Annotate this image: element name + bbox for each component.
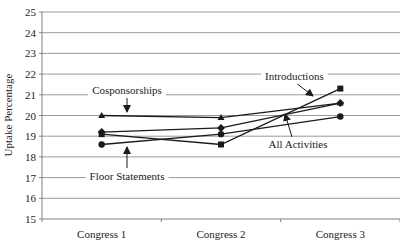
annotation-label: All Activities	[269, 138, 328, 150]
annotation-label: Cosponsorships	[92, 84, 162, 96]
circle-marker	[337, 113, 343, 119]
x-tick-label: Congress 2	[196, 228, 245, 240]
diamond-marker	[336, 99, 344, 107]
y-tick-label: 17	[25, 172, 37, 184]
y-tick-label: 18	[25, 151, 37, 163]
y-tick-label: 22	[25, 68, 36, 80]
circle-marker	[218, 131, 224, 137]
annotations: CosponsorshipsIntroductionsAll Activitie…	[86, 69, 332, 183]
annotation-label: Floor Statements	[90, 170, 165, 182]
y-tick-label: 19	[25, 130, 37, 142]
annotation: Introductions	[261, 69, 328, 96]
x-axis: Congress 1Congress 2Congress 3	[42, 219, 400, 240]
square-marker	[218, 141, 224, 147]
annotation-label: Introductions	[265, 70, 324, 82]
square-marker	[337, 86, 343, 92]
line-chart: 1516171819202122232425 Congress 1Congres…	[0, 0, 400, 244]
annotation: Floor Statements	[86, 147, 169, 183]
y-tick-label: 20	[25, 110, 37, 122]
arrow-icon	[297, 84, 313, 96]
arrow-icon	[285, 114, 292, 137]
annotation: Cosponsorships	[88, 83, 166, 112]
y-axis: 1516171819202122232425	[25, 6, 42, 225]
circle-marker	[98, 141, 104, 147]
y-tick-label: 21	[25, 89, 36, 101]
y-axis-label: Uptake Percentage	[2, 74, 14, 157]
y-tick-label: 24	[25, 27, 37, 39]
x-tick-label: Congress 1	[77, 228, 126, 240]
y-tick-label: 15	[25, 213, 37, 225]
y-tick-label: 25	[25, 6, 37, 18]
x-tick-label: Congress 3	[316, 228, 366, 240]
y-tick-label: 16	[25, 192, 37, 204]
y-tick-label: 23	[25, 47, 37, 59]
diamond-marker	[217, 124, 225, 132]
chart-canvas: 1516171819202122232425 Congress 1Congres…	[0, 0, 400, 244]
